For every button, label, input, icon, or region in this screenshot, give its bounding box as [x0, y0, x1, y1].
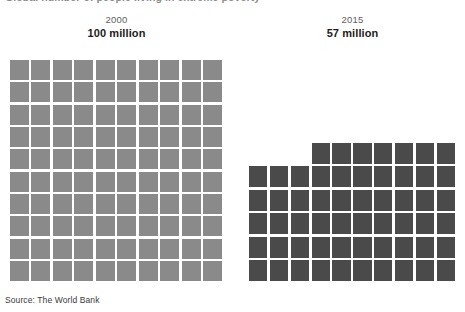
waffle-cell [353, 213, 371, 234]
waffle-cell [96, 60, 115, 80]
waffle-cell [437, 237, 455, 258]
waffle-cell [249, 260, 267, 281]
waffle-cell [182, 239, 201, 259]
waffle-cell [270, 260, 288, 281]
waffle-cell [10, 82, 29, 102]
waffle-cell [203, 105, 222, 125]
panel-2000-value-label: 100 million [10, 26, 223, 41]
waffle-cell [395, 260, 413, 281]
waffle-cell [31, 149, 50, 169]
waffle-cell [437, 260, 455, 281]
waffle-cell [203, 127, 222, 147]
waffle-cell [31, 105, 50, 125]
waffle-cell [437, 166, 455, 187]
waffle-cell [312, 260, 330, 281]
waffle-cell [74, 216, 93, 236]
waffle-cell [182, 82, 201, 102]
waffle-cell [74, 105, 93, 125]
waffle-cell-empty [270, 143, 288, 164]
waffle-cell [203, 149, 222, 169]
waffle-cell [291, 190, 309, 211]
waffle-cell [10, 60, 29, 80]
waffle-cell [416, 143, 434, 164]
waffle-cell [353, 237, 371, 258]
waffle-cell-empty [249, 143, 267, 164]
waffle-cell [96, 172, 115, 192]
waffle-cell [160, 105, 179, 125]
waffle-cell [139, 149, 158, 169]
waffle-cell [139, 172, 158, 192]
waffle-grid-2015 [249, 143, 455, 281]
waffle-cell [160, 60, 179, 80]
waffle-cell [10, 216, 29, 236]
waffle-cell [291, 260, 309, 281]
waffle-cell [332, 237, 350, 258]
waffle-cell [139, 127, 158, 147]
panel-2000: 2000 100 million [10, 0, 223, 41]
waffle-cell [160, 239, 179, 259]
waffle-cell [10, 261, 29, 281]
waffle-cell [10, 149, 29, 169]
waffle-cell [74, 261, 93, 281]
waffle-cell [374, 213, 392, 234]
waffle-cell [53, 261, 72, 281]
waffle-cell [96, 239, 115, 259]
waffle-cell [31, 60, 50, 80]
waffle-cell [182, 127, 201, 147]
waffle-cell [74, 127, 93, 147]
waffle-cell [139, 261, 158, 281]
panel-2000-year-label: 2000 [10, 13, 223, 26]
waffle-cell [139, 194, 158, 214]
waffle-cell [395, 190, 413, 211]
waffle-cell [353, 260, 371, 281]
waffle-cell [203, 239, 222, 259]
waffle-cell [117, 239, 136, 259]
waffle-cell [374, 260, 392, 281]
waffle-cell [96, 149, 115, 169]
waffle-cell [139, 82, 158, 102]
waffle-cell [353, 190, 371, 211]
panel-2015-year-label: 2015 [249, 13, 456, 26]
waffle-cell [117, 149, 136, 169]
waffle-cell [31, 216, 50, 236]
waffle-grid-2000 [10, 60, 222, 281]
waffle-cell [117, 172, 136, 192]
waffle-cell [160, 149, 179, 169]
waffle-cell [332, 190, 350, 211]
waffle-cell [10, 194, 29, 214]
waffle-cell [53, 127, 72, 147]
waffle-cell [416, 190, 434, 211]
waffle-cell [437, 143, 455, 164]
waffle-cell [31, 82, 50, 102]
waffle-cell [395, 166, 413, 187]
waffle-cell [291, 237, 309, 258]
waffle-cell [203, 194, 222, 214]
waffle-cell [416, 213, 434, 234]
waffle-cell [312, 213, 330, 234]
waffle-cell [160, 127, 179, 147]
waffle-cell [249, 166, 267, 187]
waffle-cell [270, 166, 288, 187]
waffle-cell [74, 172, 93, 192]
waffle-cell [53, 216, 72, 236]
waffle-cell [291, 166, 309, 187]
waffle-cell [332, 260, 350, 281]
waffle-cell [96, 127, 115, 147]
waffle-cell [10, 172, 29, 192]
waffle-cell [96, 82, 115, 102]
waffle-cell [374, 237, 392, 258]
waffle-cell [96, 216, 115, 236]
waffle-cell [270, 213, 288, 234]
waffle-cell [182, 194, 201, 214]
waffle-cell [270, 237, 288, 258]
waffle-cell [182, 261, 201, 281]
waffle-cell [117, 261, 136, 281]
waffle-cell [249, 237, 267, 258]
waffle-cell [74, 149, 93, 169]
waffle-cell [74, 194, 93, 214]
waffle-cell [53, 172, 72, 192]
waffle-cell [270, 190, 288, 211]
waffle-cell [96, 194, 115, 214]
panel-2015: 2015 57 million [249, 0, 456, 41]
waffle-cell [160, 194, 179, 214]
